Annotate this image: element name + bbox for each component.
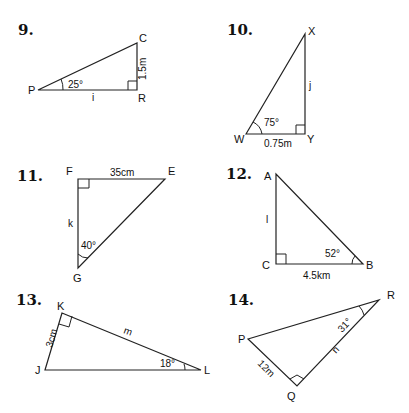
triangle-11: [78, 179, 165, 268]
vertex-label: R: [387, 289, 395, 301]
triangle-9: [38, 43, 137, 90]
vertex-label: W: [234, 133, 245, 145]
angle-label: 40°: [81, 240, 96, 251]
vertex-label: C: [139, 32, 147, 44]
problem-number: 14.: [228, 291, 254, 309]
vertex-label: F: [66, 165, 73, 177]
vertex-label: Q: [287, 390, 296, 402]
angle-label: 31°: [335, 316, 353, 335]
problem-number: 11.: [17, 167, 43, 185]
angle-label: 75°: [264, 117, 279, 128]
angle-label: 52°: [325, 248, 340, 259]
angle-label: 25°: [68, 79, 83, 90]
problem-14: 14. P R Q 31° 12m n: [228, 289, 395, 402]
vertex-label: A: [264, 170, 272, 182]
side-length-label: 35cm: [110, 167, 134, 178]
vertex-label: E: [168, 165, 175, 177]
angle-label: 18°: [160, 358, 175, 369]
vertex-label: B: [366, 259, 373, 271]
problem-number: 12.: [226, 165, 252, 183]
problem-11: 11. F E G 40° 35cm k: [17, 165, 175, 284]
angle-arc: [78, 254, 88, 258]
angle-arc: [61, 79, 63, 90]
angle-arc: [253, 122, 262, 134]
right-angle-marker: [296, 125, 305, 134]
problem-number: 10.: [227, 21, 253, 39]
triangle-12: [276, 174, 363, 264]
side-length-label: 0.75m: [264, 138, 292, 149]
problem-number: 9.: [18, 21, 34, 39]
problem-9: 9. P C R 25° 1.5m i: [18, 21, 148, 104]
side-length-label: 12m: [256, 358, 278, 380]
unknown-side-label: i: [92, 92, 94, 103]
unknown-side-label: l: [266, 214, 268, 225]
triangle-13: [45, 313, 201, 370]
unknown-side-label: j: [308, 80, 311, 91]
problem-12: 12. A C B 52° 4.5km l: [226, 165, 373, 281]
angle-arc: [359, 306, 364, 315]
side-length-label: 1.5m: [137, 58, 148, 80]
right-angle-marker: [276, 254, 286, 264]
angle-arc: [184, 364, 185, 370]
problem-number: 13.: [16, 291, 42, 309]
vertex-label: R: [138, 92, 146, 104]
problem-13: 13. K J L 18° 3cm m: [16, 291, 210, 376]
unknown-side-label: m: [122, 325, 134, 338]
right-angle-marker: [78, 179, 89, 188]
vertex-label: G: [73, 272, 82, 284]
vertex-label: Y: [307, 133, 315, 145]
right-angle-marker: [290, 375, 304, 379]
problem-10: 10. X W Y 75° 0.75m j: [227, 21, 316, 149]
vertex-label: P: [238, 333, 245, 345]
vertex-label: X: [308, 25, 316, 37]
vertex-label: P: [28, 84, 35, 96]
side-length-label: 3cm: [43, 327, 59, 348]
right-angle-marker: [128, 81, 137, 90]
side-length-label: 4.5km: [303, 270, 330, 281]
vertex-label: L: [204, 364, 210, 376]
angle-arc: [352, 256, 355, 264]
vertex-label: K: [57, 300, 65, 312]
vertex-label: C: [262, 259, 270, 271]
unknown-side-label: k: [68, 218, 74, 229]
vertex-label: J: [35, 364, 41, 376]
